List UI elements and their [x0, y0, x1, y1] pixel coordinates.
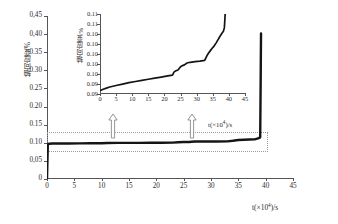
main-x-tick: [293, 178, 294, 181]
inset-y-tick-label: 0.11: [82, 21, 98, 27]
main-x-tick-label: 10: [90, 183, 114, 190]
axial-strain-time-chart: 00,050.100.150.200.250.300.350,400,45 05…: [0, 0, 338, 224]
inset-y-axis-title: 轴向应变/%: [78, 28, 85, 63]
inset-y-tick-label: 0.09: [82, 81, 98, 87]
main-x-tick-label: 40: [254, 183, 278, 190]
inset-y-tick-label: 0.10: [82, 71, 98, 77]
inset-x-tick-label: 45: [236, 96, 254, 102]
inset-plot: [100, 14, 248, 106]
callout-arrow-left-icon: [107, 113, 119, 139]
main-x-tick-label: 25: [172, 183, 196, 190]
inset-y-tick-label: 0.11: [82, 11, 98, 17]
main-x-tick-label: 45: [281, 183, 305, 190]
main-y-tick-label: 0,05: [0, 157, 42, 164]
main-x-title-suffix: )/s: [271, 203, 278, 212]
callout-arrow-right-icon: [186, 113, 198, 139]
inset-plot-area: [100, 14, 248, 106]
main-x-tick-label: 20: [144, 183, 168, 190]
main-x-tick-label: 35: [226, 183, 250, 190]
main-y-tick-label: 0.25: [0, 85, 42, 92]
main-y-tick-label: 0.10: [0, 139, 42, 146]
main-y-tick-label: 0.35: [0, 49, 42, 56]
inset-x-title-suffix: )/s: [225, 121, 232, 128]
main-y-tick-label: 0.30: [0, 67, 42, 74]
inset-data-curve: [100, 14, 245, 94]
main-y-tick-label: 0.15: [0, 121, 42, 128]
main-y-axis-title: 轴向应变/%: [24, 42, 31, 78]
main-x-tick-label: 15: [117, 183, 141, 190]
main-x-title-prefix: t(×10: [252, 203, 268, 212]
main-x-axis-title: t(×104)/s: [252, 203, 278, 212]
inset-x-axis-title: t(×104)/s: [208, 120, 232, 129]
main-y-tick-label: 0,40: [0, 31, 42, 38]
main-y-tick-label: 0: [0, 175, 42, 182]
main-x-tick-label: 5: [62, 183, 86, 190]
main-y-tick-label: 0.20: [0, 103, 42, 110]
main-y-tick-label: 0,45: [0, 12, 42, 19]
main-x-tick-label: 0: [35, 183, 59, 190]
inset-x-title-prefix: t(×10: [208, 121, 223, 128]
main-x-tick-label: 30: [199, 183, 223, 190]
